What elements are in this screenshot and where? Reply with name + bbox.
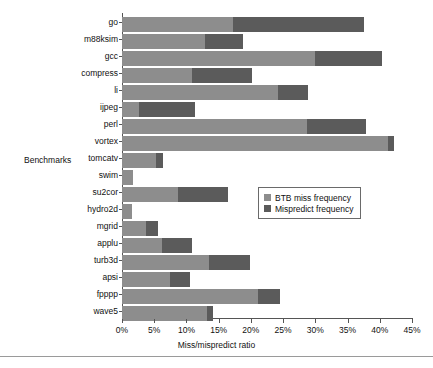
x-axis-tick <box>186 319 187 323</box>
y-axis-tick <box>119 175 122 176</box>
y-axis-tick <box>119 226 122 227</box>
x-axis-tick <box>219 319 220 323</box>
y-axis-tick <box>119 192 122 193</box>
y-axis-label-wave5: wave5 <box>93 306 118 316</box>
x-axis-title: Miss/mispredict ratio <box>0 340 433 350</box>
bar-segment-btb-miss <box>122 170 133 185</box>
bar-segment-mispredict <box>178 187 228 202</box>
bar-row <box>122 68 412 83</box>
legend-item: BTB miss frequency <box>264 192 353 203</box>
bar-segment-btb-miss <box>122 51 315 66</box>
bar-segment-mispredict <box>205 34 242 49</box>
x-axis-tick-label: 0% <box>116 325 128 335</box>
bar-segment-btb-miss <box>122 221 146 236</box>
y-axis-tick <box>119 294 122 295</box>
y-axis-label-turb3d: turb3d <box>94 255 118 265</box>
y-axis-tick <box>119 260 122 261</box>
bar-row <box>122 136 412 151</box>
y-axis-label-applu: applu <box>97 238 118 248</box>
x-axis-tick <box>380 319 381 323</box>
bar-segment-btb-miss <box>122 119 307 134</box>
y-axis-category-labels: gom88ksimgcccompressliijpegperlvortextom… <box>0 13 118 319</box>
y-axis-label-ijpeg: ijpeg <box>100 102 118 112</box>
chart-legend: BTB miss frequencyMispredict frequency <box>258 187 361 219</box>
bar-segment-btb-miss <box>122 272 170 287</box>
x-axis-tick <box>315 319 316 323</box>
bar-segment-btb-miss <box>122 102 139 117</box>
bar-segment-mispredict <box>388 136 394 151</box>
x-axis-ticks <box>122 319 414 324</box>
bar-segment-btb-miss <box>122 289 258 304</box>
x-axis-tick-label: 25% <box>275 325 292 335</box>
x-axis-tick-label: 15% <box>210 325 227 335</box>
x-axis-tick-labels: 0%5%10%15%20%25%30%35%40%45% <box>122 325 414 337</box>
y-axis-tick <box>119 158 122 159</box>
y-axis-tick <box>119 243 122 244</box>
y-axis-label-mgrid: mgrid <box>97 221 118 231</box>
bar-segment-mispredict <box>192 68 252 83</box>
x-axis-tick-label: 35% <box>339 325 356 335</box>
y-axis-label-fpppp: fpppp <box>97 289 118 299</box>
bar-segment-mispredict <box>139 102 196 117</box>
bar-row <box>122 221 412 236</box>
bar-segment-btb-miss <box>122 136 388 151</box>
x-axis-tick <box>412 319 413 323</box>
x-axis-tick-label: 30% <box>307 325 324 335</box>
y-axis-tick <box>119 209 122 210</box>
bar-row <box>122 119 412 134</box>
bar-segment-btb-miss <box>122 187 178 202</box>
y-axis-label-m88ksim: m88ksim <box>84 34 118 44</box>
plot-area <box>122 13 412 319</box>
bar-segment-btb-miss <box>122 68 192 83</box>
bar-segment-mispredict <box>307 119 366 134</box>
y-axis-tick <box>119 311 122 312</box>
bar-row <box>122 102 412 117</box>
y-axis-label-li: li <box>114 85 118 95</box>
y-axis-tick <box>119 107 122 108</box>
legend-swatch-icon <box>264 205 271 212</box>
bar-row <box>122 272 412 287</box>
y-axis-label-go: go <box>109 17 118 27</box>
x-axis-tick-label: 20% <box>242 325 259 335</box>
y-axis-label-perl: perl <box>104 119 118 129</box>
bar-segment-mispredict <box>146 221 158 236</box>
legend-item: Mispredict frequency <box>264 203 353 214</box>
x-axis-tick <box>348 319 349 323</box>
bar-segment-mispredict <box>170 272 190 287</box>
bar-row <box>122 34 412 49</box>
bar-segment-btb-miss <box>122 255 209 270</box>
x-axis-tick-label: 40% <box>371 325 388 335</box>
y-axis-tick <box>119 56 122 57</box>
y-axis-label-apsi: apsi <box>102 272 118 282</box>
bar-segment-mispredict <box>278 85 308 100</box>
page-divider-rule <box>0 356 433 357</box>
bar-row <box>122 289 412 304</box>
x-axis-tick <box>122 319 123 323</box>
x-axis-tick <box>283 319 284 323</box>
y-axis-label-gcc: gcc <box>105 51 118 61</box>
bar-segment-btb-miss <box>122 85 278 100</box>
y-axis-label-tomcatv: tomcatv <box>88 153 118 163</box>
bar-row <box>122 255 412 270</box>
bar-row <box>122 153 412 168</box>
y-axis-tick <box>119 90 122 91</box>
y-axis-label-hydro2d: hydro2d <box>87 204 118 214</box>
x-axis-tick <box>251 319 252 323</box>
bar-segment-btb-miss <box>122 238 162 253</box>
bar-segment-mispredict <box>258 289 280 304</box>
bar-row <box>122 85 412 100</box>
x-axis-tick-label: 5% <box>148 325 160 335</box>
bar-segment-mispredict <box>162 238 192 253</box>
y-axis-label-su2cor: su2cor <box>92 187 118 197</box>
bar-segment-mispredict <box>233 17 364 32</box>
y-axis-tick <box>119 39 122 40</box>
bar-segment-btb-miss <box>122 204 132 219</box>
x-axis-tick-label: 45% <box>403 325 420 335</box>
bar-row <box>122 51 412 66</box>
x-axis-tick <box>154 319 155 323</box>
legend-label: Mispredict frequency <box>275 204 353 214</box>
y-axis-tick <box>119 73 122 74</box>
bar-chart-figure: gom88ksimgcccompressliijpegperlvortextom… <box>0 0 433 368</box>
bar-row <box>122 17 412 32</box>
bar-segment-btb-miss <box>122 17 233 32</box>
